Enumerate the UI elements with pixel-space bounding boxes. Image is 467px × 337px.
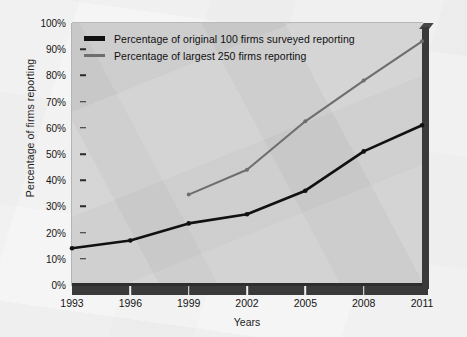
legend-label: Percentage of original 100 firms surveye… [114, 33, 355, 45]
data-point-marker [245, 168, 249, 172]
data-point-marker [70, 246, 75, 251]
legend-item-largest-250: Percentage of largest 250 firms reportin… [84, 47, 355, 64]
data-point-marker [187, 193, 191, 197]
data-point-marker [361, 149, 366, 154]
chart-legend: Percentage of original 100 firms surveye… [84, 30, 355, 64]
data-point-marker [420, 123, 425, 128]
series-line [189, 41, 422, 194]
legend-item-original-100: Percentage of original 100 firms surveye… [84, 30, 355, 47]
data-point-marker [303, 188, 308, 193]
gray-line-swatch [84, 54, 105, 58]
series-line [72, 125, 422, 248]
line-chart-figure: 0%10%20%30%40%50%60%70%80%90%100% 199319… [0, 0, 467, 337]
data-point-marker [128, 238, 133, 243]
legend-label: Percentage of largest 250 firms reportin… [114, 50, 306, 62]
black-line-swatch [84, 36, 105, 41]
data-point-marker [420, 39, 424, 43]
data-point-marker [245, 212, 250, 217]
data-point-marker [362, 79, 366, 83]
data-point-marker [186, 221, 191, 226]
data-point-marker [303, 119, 307, 123]
